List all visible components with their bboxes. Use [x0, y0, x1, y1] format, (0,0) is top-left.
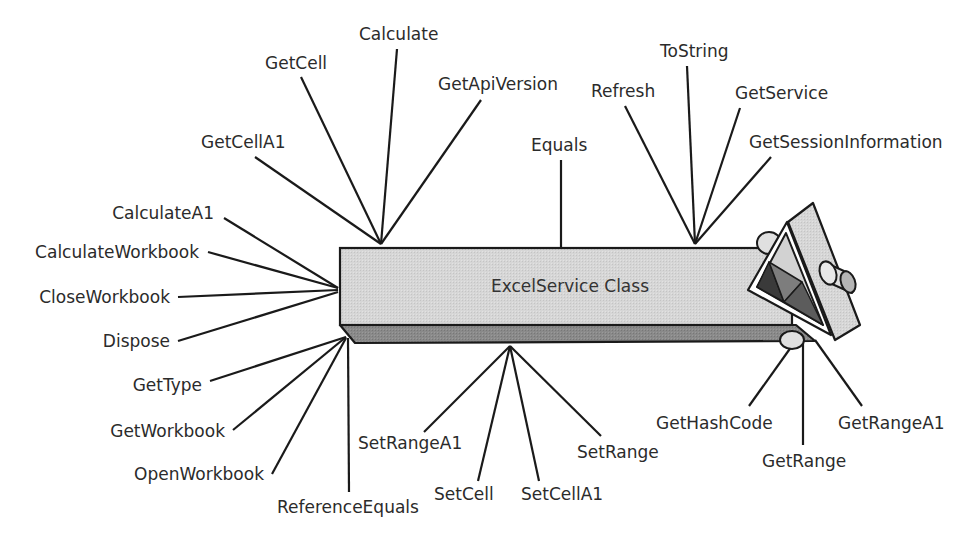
member-label-referenceequals: ReferenceEquals: [277, 497, 419, 517]
member-label-equals: Equals: [531, 135, 587, 155]
member-label-dispose: Dispose: [103, 331, 170, 351]
member-label-tostring: ToString: [659, 41, 729, 61]
member-label-calculateworkbook: CalculateWorkbook: [35, 242, 199, 262]
member-label-getsessioninformation: GetSessionInformation: [749, 132, 943, 152]
member-label-gethashcode: GetHashCode: [656, 413, 773, 433]
member-label-setcell: SetCell: [434, 484, 494, 504]
member-label-calculatea1: CalculateA1: [112, 203, 214, 223]
member-label-getworkbook: GetWorkbook: [110, 421, 225, 441]
box-bottom-face: [340, 325, 815, 343]
member-label-setrange: SetRange: [577, 442, 659, 462]
member-label-getapiversion: GetApiVersion: [438, 74, 558, 94]
class-diagram: ExcelService Class GetCell Calculate Get…: [0, 0, 971, 537]
member-label-getcella1: GetCellA1: [201, 132, 286, 152]
member-label-getrange: GetRange: [762, 451, 846, 471]
member-label-closeworkbook: CloseWorkbook: [39, 287, 170, 307]
connectors-left: [178, 218, 338, 341]
member-label-refresh: Refresh: [591, 81, 655, 101]
member-label-setrangea1: SetRangeA1: [358, 433, 462, 453]
member-label-getservice: GetService: [735, 83, 828, 103]
connectors-bottom: [424, 346, 601, 481]
class-title: ExcelService Class: [491, 276, 649, 296]
member-label-setcella1: SetCellA1: [521, 484, 603, 504]
member-label-getcell: GetCell: [265, 53, 327, 73]
member-label-calculate: Calculate: [359, 24, 438, 44]
member-label-openworkbook: OpenWorkbook: [134, 464, 264, 484]
member-label-getrangea1: GetRangeA1: [838, 413, 945, 433]
member-label-gettype: GetType: [133, 375, 202, 395]
